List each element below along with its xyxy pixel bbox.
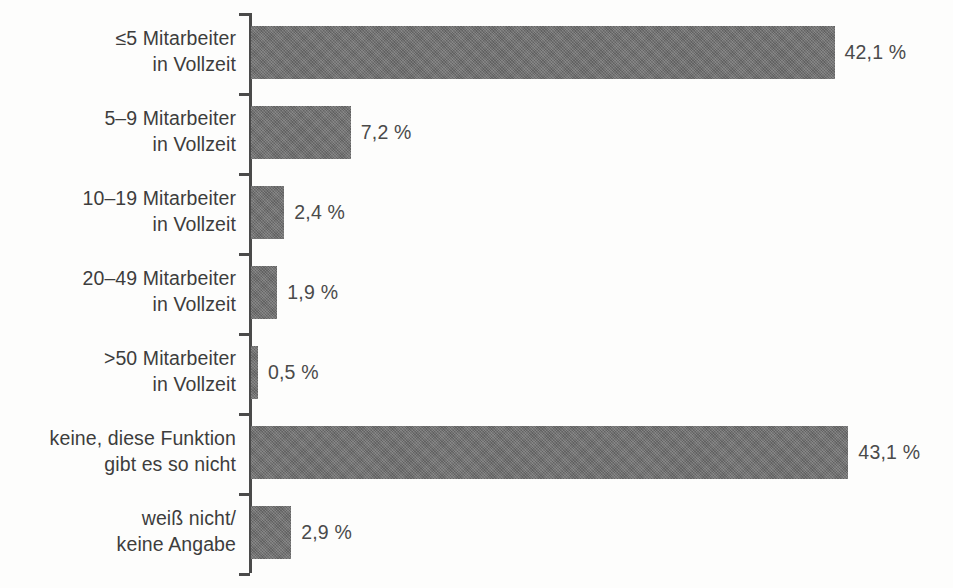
category-label-line1: ≤5 Mitarbeiter	[116, 27, 236, 49]
bar-value-label: 0,5 %	[268, 361, 319, 383]
category-label-line1: >50 Mitarbeiter	[104, 347, 236, 369]
bar-value-label: 42,1 %	[845, 41, 907, 63]
category-label-line2: in Vollzeit	[0, 211, 236, 237]
bar	[251, 506, 291, 559]
category-label-line1: 10–19 Mitarbeiter	[83, 187, 236, 209]
bar	[251, 426, 848, 479]
category-label-line1: weiß nicht/	[142, 507, 236, 529]
category-label-line2: keine Angabe	[0, 531, 236, 557]
bar-chart: ≤5 Mitarbeiterin Vollzeit42,1 %5–9 Mitar…	[0, 0, 953, 588]
bar	[251, 186, 284, 239]
category-label-line2: in Vollzeit	[0, 131, 236, 157]
axis-tick	[239, 173, 250, 176]
category-label: 20–49 Mitarbeiterin Vollzeit	[0, 265, 236, 317]
bar-value-label: 7,2 %	[361, 121, 412, 143]
axis-tick	[239, 253, 250, 256]
category-label: >50 Mitarbeiterin Vollzeit	[0, 345, 236, 397]
category-label: keine, diese Funktiongibt es so nicht	[0, 425, 236, 477]
category-label: 10–19 Mitarbeiterin Vollzeit	[0, 185, 236, 237]
bar-value-label: 2,4 %	[294, 201, 345, 223]
bar	[251, 346, 258, 399]
axis-tick	[239, 413, 250, 416]
category-label-line1: 5–9 Mitarbeiter	[104, 107, 236, 129]
category-label-line2: in Vollzeit	[0, 291, 236, 317]
axis-tick-end	[239, 573, 250, 576]
category-label-line1: keine, diese Funktion	[50, 427, 236, 449]
category-label-line2: in Vollzeit	[0, 51, 236, 77]
bar-value-label: 1,9 %	[287, 281, 338, 303]
bar-value-label: 2,9 %	[301, 521, 352, 543]
axis-tick	[239, 333, 250, 336]
bar	[251, 266, 277, 319]
bar	[251, 106, 351, 159]
axis-tick	[239, 493, 250, 496]
category-label-line2: gibt es so nicht	[0, 451, 236, 477]
axis-tick	[239, 93, 250, 96]
category-label-line2: in Vollzeit	[0, 371, 236, 397]
axis-tick	[239, 13, 250, 16]
category-label-line1: 20–49 Mitarbeiter	[83, 267, 236, 289]
category-label: 5–9 Mitarbeiterin Vollzeit	[0, 105, 236, 157]
bar-value-label: 43,1 %	[858, 441, 920, 463]
bar	[251, 26, 835, 79]
category-label: ≤5 Mitarbeiterin Vollzeit	[0, 25, 236, 77]
category-label: weiß nicht/keine Angabe	[0, 505, 236, 557]
